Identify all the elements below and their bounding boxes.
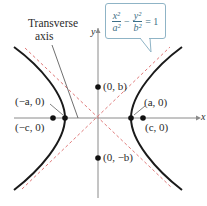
minus-sign: − <box>124 16 130 27</box>
leader-neg-a <box>50 104 63 115</box>
x-squared: x² <box>112 10 121 22</box>
transverse-label-line2: axis <box>35 31 54 43</box>
transverse-axis-pointer <box>52 45 78 118</box>
point-pos-c <box>140 115 146 121</box>
point-pos-a <box>128 115 134 121</box>
x-fraction: x² a² <box>112 10 121 33</box>
y-axis-arrow-icon <box>96 28 101 33</box>
y-axis-label: y <box>91 27 95 37</box>
point-pos-b <box>95 84 101 90</box>
transverse-label-line1: Transverse <box>28 18 78 30</box>
label-neg-b: (0, −b) <box>103 152 133 163</box>
callout-tail <box>140 38 151 52</box>
label-neg-c: (−c, 0) <box>15 122 44 133</box>
a-squared: a² <box>112 22 120 33</box>
equation-callout: x² a² − y² b² = 1 <box>105 3 166 39</box>
label-pos-c: (c, 0) <box>145 122 168 133</box>
x-axis-label: x <box>201 112 205 122</box>
equals-one: = 1 <box>145 16 158 27</box>
label-pos-a: (a, 0) <box>144 97 167 108</box>
label-neg-a: (−a, 0) <box>15 96 44 107</box>
callout-tail-joint <box>141 37 149 39</box>
point-neg-b <box>95 155 101 161</box>
hyperbola-equation: x² a² − y² b² = 1 <box>106 4 165 38</box>
y-squared: y² <box>133 10 142 22</box>
label-pos-b: (0, b) <box>103 81 127 92</box>
b-squared: b² <box>133 22 141 33</box>
point-neg-a <box>62 115 68 121</box>
point-neg-c <box>50 115 56 121</box>
y-fraction: y² b² <box>133 10 142 33</box>
